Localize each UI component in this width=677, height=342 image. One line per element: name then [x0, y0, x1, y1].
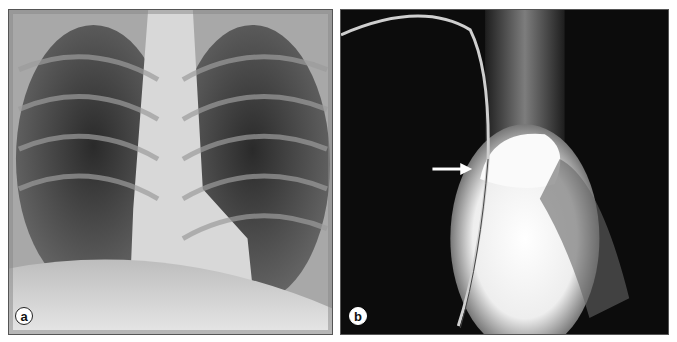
chest-xray-image-a [9, 10, 332, 334]
xray-panel-b: b [340, 9, 669, 335]
panel-label-b: b [349, 307, 367, 325]
panel-label-a: a [15, 307, 33, 325]
chest-angiogram-image-b [341, 10, 668, 334]
xray-panel-a: a [8, 9, 333, 335]
